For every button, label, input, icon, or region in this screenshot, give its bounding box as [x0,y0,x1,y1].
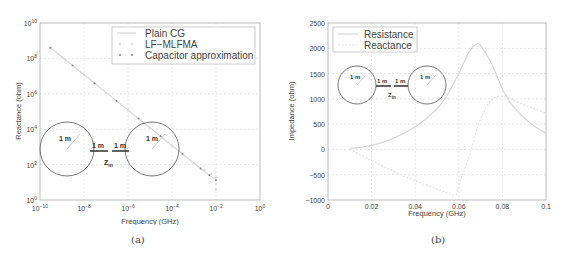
tick-label: 1500 [309,71,325,78]
point-lf-mlfma [215,188,218,191]
inset-a-radius-left: 1 m [59,135,71,142]
tick-label: −1000 [305,197,325,204]
point-lf-mlfma [127,109,130,112]
legend-label-reactance: Reactance [364,40,412,51]
tick-label: 0.08 [496,203,510,210]
chart-b-ylabel: Impedance (ohm) [287,81,296,140]
point-lf-mlfma [193,162,196,165]
tick-label: 0.02 [365,203,379,210]
tick-label: 0 [321,146,325,153]
tick-label: 104 [26,124,37,133]
tick-label: 10−4 [165,203,179,212]
point-lf-mlfma [83,73,86,76]
legend-label-plain-cg: Plain CG [145,28,185,39]
point-lf-mlfma [171,144,174,147]
chart-a-inset-diagram [40,122,179,176]
tick-label: 10−2 [209,203,223,212]
tick-label: 100 [255,203,266,212]
point-capacitor [181,153,183,155]
tick-label: 0.1 [541,203,551,210]
inset-b-length-right: 1 m [395,78,405,84]
tick-label: −500 [309,172,325,179]
tick-label: 0 [326,203,330,210]
tick-label: 1000 [309,96,325,103]
point-lf-mlfma [105,91,108,94]
chart-panel-b: 00.020.040.060.080.1−1000−50005001000150… [283,0,566,257]
tick-label: 10−8 [77,203,91,212]
legend-marker-capacitor [119,54,121,56]
chart-b-plot: 00.020.040.060.080.1−1000−50005001000150… [283,0,566,225]
tick-label: 2000 [309,45,325,52]
chart-b-series [350,43,546,195]
chart-a-series [49,46,217,190]
inset-a-zin: Zin [104,159,113,168]
point-capacitor [93,82,95,84]
inset-b-length-left: 1 m [377,78,387,84]
inset-a-radius-right: 1 m [146,135,158,142]
tick-label: 10−10 [32,203,48,212]
legend-label-resistance: Resistance [364,29,414,40]
point-capacitor [200,168,202,170]
tick-label: 102 [26,160,37,169]
tick-label: 108 [26,53,37,62]
point-capacitor [159,135,161,137]
point-capacitor [137,118,139,120]
point-capacitor [115,100,117,102]
tick-label: 10−6 [121,203,135,212]
point-lf-mlfma [203,169,206,172]
point-capacitor [49,47,51,49]
point-capacitor [208,174,210,176]
tick-label: 500 [313,121,325,128]
legend-label-lf-mlfma: LF−MLFMA [145,39,198,50]
chart-panel-a: 10−1010−810−610−410−21001001021041061081… [0,0,283,257]
chart-a-xlabel: Frequency (GHz) [121,217,179,225]
point-lf-mlfma [61,56,64,59]
tick-label: 106 [26,89,37,98]
inset-b-radius-right: 1 m [420,74,430,80]
caption-b: (b) [431,234,445,245]
point-lf-mlfma [149,126,152,129]
chart-b-legend: Resistance Reactance [333,27,417,52]
chart-a-plot: 10−1010−810−610−410−21001001021041061081… [0,0,283,225]
point-capacitor [71,64,73,66]
point-lf-mlfma [215,176,218,179]
tick-label: 2500 [309,20,325,27]
legend-marker-lf-mlfma [119,43,121,45]
point-lf-mlfma [215,183,218,186]
caption-a: (a) [131,234,145,245]
legend-label-capacitor: Capacitor approximation [145,50,253,61]
series-plain-cg [50,48,216,179]
tick-label: 1010 [24,18,38,27]
inset-b-radius-left: 1 m [350,74,360,80]
chart-a-ylabel: Reactance (ohm) [14,82,23,140]
chart-a-legend: Plain CG LF−MLFMA Capacitor approximatio… [112,27,255,64]
tick-label: 100 [26,195,37,204]
inset-a-length-left: 1 m [92,142,104,149]
inset-a-length-right: 1 m [114,142,126,149]
series-resistance [350,43,546,148]
point-capacitor [215,179,217,181]
chart-b-xlabel: Frequency (GHz) [408,209,466,218]
inset-b-zin: Zin [388,92,396,100]
